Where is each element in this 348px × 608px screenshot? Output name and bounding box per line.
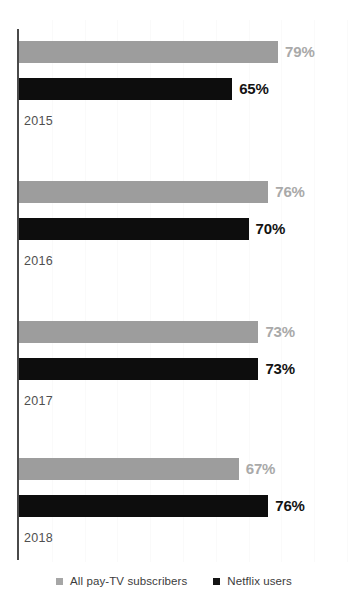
bar-value-label: 73% <box>265 321 294 343</box>
legend-item-netflix-users[interactable]: Netflix users <box>213 575 292 587</box>
legend-swatch-icon <box>56 578 63 585</box>
bar-2018-netflix-users <box>19 495 268 517</box>
category-label-2016: 2016 <box>24 254 53 268</box>
category-label-2018: 2018 <box>24 531 53 545</box>
legend-item-label: All pay-TV subscribers <box>70 575 187 587</box>
bar-value-label: 79% <box>285 41 314 63</box>
category-label-2015: 2015 <box>24 114 53 128</box>
legend-item-label: Netflix users <box>227 575 292 587</box>
chart-legend: All pay-TV subscribers Netflix users <box>0 575 348 587</box>
chart-plot-area: 79%65%201576%70%201673%73%201767%76%2018 <box>0 0 348 608</box>
bar-2015-netflix-users <box>19 78 232 100</box>
bar-value-label: 67% <box>246 458 275 480</box>
bar-2018-all-pay-tv-subscribers <box>19 458 239 480</box>
legend-swatch-icon <box>213 578 220 585</box>
bar-2016-netflix-users <box>19 218 249 240</box>
bar-value-label: 76% <box>275 495 304 517</box>
bar-2016-all-pay-tv-subscribers <box>19 181 268 203</box>
bar-value-label: 73% <box>265 358 294 380</box>
bar-2017-netflix-users <box>19 358 258 380</box>
legend-item-all-pay-tv-subscribers[interactable]: All pay-TV subscribers <box>56 575 187 587</box>
bar-value-label: 76% <box>275 181 304 203</box>
bar-2015-all-pay-tv-subscribers <box>19 41 278 63</box>
bar-chart: 79%65%201576%70%201673%73%201767%76%2018… <box>0 0 348 608</box>
bar-value-label: 70% <box>256 218 285 240</box>
bar-value-label: 65% <box>239 78 268 100</box>
category-label-2017: 2017 <box>24 394 53 408</box>
bar-2017-all-pay-tv-subscribers <box>19 321 258 343</box>
